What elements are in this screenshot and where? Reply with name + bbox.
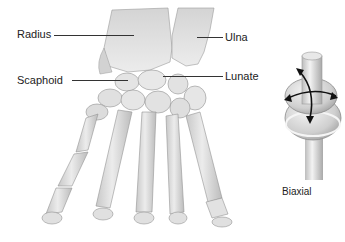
finger-bones bbox=[42, 110, 232, 227]
label-scaphoid: Scaphoid bbox=[17, 75, 63, 86]
hand-bones-illustration-icon bbox=[0, 0, 345, 242]
leader-line-radius bbox=[54, 35, 134, 36]
figure: Radius Scaphoid Ulna Lunate Biaxial bbox=[0, 0, 345, 242]
leader-line-scaphoid bbox=[72, 80, 128, 81]
radius-bone bbox=[99, 8, 172, 74]
leader-line-lunate bbox=[163, 76, 223, 77]
leader-line-ulna bbox=[197, 37, 223, 38]
label-lunate: Lunate bbox=[225, 71, 259, 82]
label-radius: Radius bbox=[17, 29, 51, 40]
label-ulna: Ulna bbox=[225, 32, 248, 43]
label-biaxial: Biaxial bbox=[282, 187, 311, 197]
